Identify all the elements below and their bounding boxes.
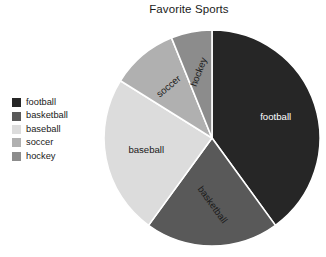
- chart-legend: footballbasketballbaseballsoccerhockey: [12, 96, 88, 163]
- pie-slice-label-baseball: baseball: [128, 144, 164, 155]
- legend-item-label: hockey: [26, 152, 55, 161]
- legend-item-label: soccer: [26, 138, 53, 147]
- legend-swatch-icon: [12, 125, 21, 134]
- legend-item-soccer[interactable]: soccer: [12, 136, 88, 149]
- legend-swatch-icon: [12, 138, 21, 147]
- pie-slice-group: [104, 30, 320, 246]
- page-title: Favorite Sports: [0, 3, 326, 15]
- legend-item-football[interactable]: football: [12, 96, 88, 109]
- legend-item-label: basketball: [26, 111, 68, 120]
- legend-item-basketball[interactable]: basketball: [12, 109, 88, 122]
- legend-item-baseball[interactable]: baseball: [12, 123, 88, 136]
- legend-item-label: football: [26, 98, 56, 107]
- legend-item-hockey[interactable]: hockey: [12, 150, 88, 163]
- legend-swatch-icon: [12, 98, 21, 107]
- chart-page: Favorite Sports footballbasketballbaseba…: [0, 0, 326, 257]
- legend-swatch-icon: [12, 152, 21, 161]
- pie-chart-svg: footballbasketballbaseballsoccerhockey: [101, 26, 323, 252]
- legend-item-label: baseball: [26, 125, 61, 134]
- pie-slice-label-football: football: [260, 111, 291, 122]
- legend-swatch-icon: [12, 112, 21, 121]
- pie-chart: footballbasketballbaseballsoccerhockey: [101, 26, 323, 252]
